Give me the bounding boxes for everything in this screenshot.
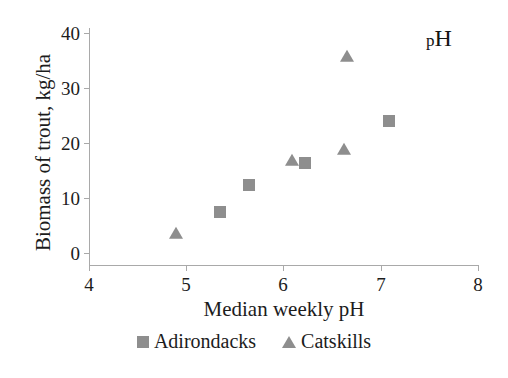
square-marker-icon [137, 336, 149, 348]
data-point-square [383, 115, 395, 127]
data-point-square [243, 179, 255, 191]
x-tick-mark [478, 266, 479, 271]
scatter-chart-figure: 40 30 20 10 0 4 5 6 7 8 Median weekly pH… [0, 0, 508, 378]
x-tick-label: 5 [181, 275, 191, 294]
data-point-triangle [340, 50, 354, 62]
legend-label: Adirondacks [154, 330, 256, 353]
x-tick-mark [283, 266, 284, 271]
x-tick-label: 6 [278, 275, 288, 294]
y-axis-title: Biomass of trout, kg/ha [31, 23, 56, 283]
x-tick-mark [89, 266, 90, 271]
x-tick-mark [381, 266, 382, 271]
x-tick-label: 7 [376, 275, 386, 294]
legend-entry-catskills: Catskills [282, 330, 371, 353]
ph-annotation: pH [426, 25, 452, 52]
data-point-triangle [169, 227, 183, 239]
legend-entry-adirondacks: Adirondacks [137, 330, 256, 353]
chart-legend: Adirondacks Catskills [0, 330, 508, 353]
x-tick-label: 8 [473, 275, 483, 294]
data-point-triangle [285, 153, 299, 165]
legend-label: Catskills [301, 330, 371, 353]
triangle-marker-icon [282, 336, 296, 348]
ph-annotation-prefix: p [426, 31, 435, 50]
x-axis-line [89, 265, 479, 266]
ph-annotation-suffix: H [435, 25, 452, 51]
x-tick-mark [186, 266, 187, 271]
x-axis-title: Median weekly pH [89, 297, 479, 322]
data-point-square [214, 206, 226, 218]
data-point-triangle [337, 142, 351, 154]
x-tick-label: 4 [84, 275, 94, 294]
y-axis-line [89, 28, 90, 266]
data-point-square [299, 157, 311, 169]
